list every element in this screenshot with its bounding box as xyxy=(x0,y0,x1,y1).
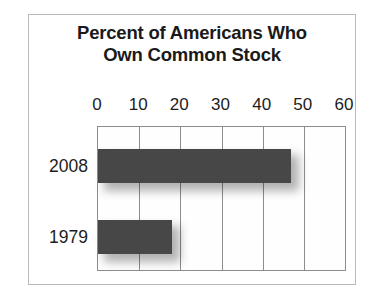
category-label-1979: 1979 xyxy=(26,220,88,254)
bar-2008 xyxy=(98,149,291,183)
x-axis-tick-40: 40 xyxy=(242,95,282,115)
chart-title-line-1: Percent of Americans Who xyxy=(29,22,355,44)
bar-1979 xyxy=(98,220,172,254)
category-label-2008: 2008 xyxy=(26,149,88,183)
plot-area: 20081979 xyxy=(97,126,346,271)
x-axis-tick-60: 60 xyxy=(324,95,364,115)
chart-title-line-2: Own Common Stock xyxy=(29,44,355,66)
chart-figure-frame: Percent of Americans Who Own Common Stoc… xyxy=(28,14,356,285)
bar-row-2008: 2008 xyxy=(98,149,345,183)
x-axis-tick-10: 10 xyxy=(118,95,158,115)
chart-title: Percent of Americans Who Own Common Stoc… xyxy=(29,22,355,66)
x-axis-tick-30: 30 xyxy=(201,95,241,115)
bar-row-1979: 1979 xyxy=(98,220,345,254)
x-axis-tick-0: 0 xyxy=(77,95,117,115)
x-axis-tick-20: 20 xyxy=(159,95,199,115)
x-axis-tick-labels: 0102030405060 xyxy=(97,95,346,117)
x-axis-tick-50: 50 xyxy=(283,95,323,115)
